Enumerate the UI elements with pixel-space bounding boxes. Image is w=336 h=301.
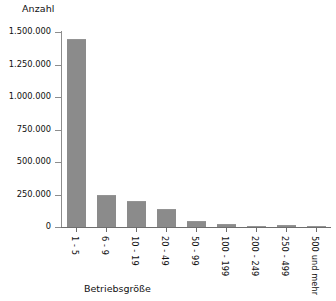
x-axis-tick-label: 20 - 49 bbox=[160, 236, 170, 266]
x-axis-tick-mark bbox=[256, 227, 257, 232]
bar bbox=[157, 209, 176, 227]
bar bbox=[67, 39, 86, 228]
y-axis-tick-label: 1.250.000 bbox=[9, 59, 51, 69]
x-axis-tick-label: 10 - 19 bbox=[130, 236, 140, 266]
x-axis-tick-mark bbox=[316, 227, 317, 232]
x-axis-tick-label: 50 - 99 bbox=[190, 236, 200, 266]
x-axis-tick-mark bbox=[196, 227, 197, 232]
y-axis-title: Anzahl bbox=[22, 3, 55, 14]
y-axis-tick-label: 1.500.000 bbox=[9, 26, 51, 36]
y-axis-tick-label: 500.000 bbox=[17, 156, 51, 166]
x-axis-tick-label: 200 - 249 bbox=[250, 236, 260, 276]
x-axis-tick-mark bbox=[76, 227, 77, 232]
x-axis-tick-label: 100 - 199 bbox=[220, 236, 230, 276]
y-axis-tick-label: 1.000.000 bbox=[9, 91, 51, 101]
x-axis-tick-label: 500 und mehr bbox=[310, 236, 320, 295]
x-axis-tick-mark bbox=[106, 227, 107, 232]
x-axis-tick-mark bbox=[286, 227, 287, 232]
bar-chart: Anzahl 0250.000500.000750.0001.000.0001.… bbox=[0, 0, 336, 301]
x-axis-tick-mark bbox=[136, 227, 137, 232]
bar bbox=[127, 201, 146, 227]
x-axis-tick-label: 6 - 9 bbox=[100, 236, 110, 255]
bar bbox=[97, 195, 116, 228]
y-axis-tick-label: 0 bbox=[46, 221, 51, 231]
bar-series bbox=[61, 32, 331, 227]
y-axis-tick-label: 750.000 bbox=[17, 124, 51, 134]
y-axis-tick-label: 250.000 bbox=[17, 189, 51, 199]
x-axis-tick-mark bbox=[226, 227, 227, 232]
x-axis-tick-label: 1 - 5 bbox=[70, 236, 80, 255]
x-axis-tick-mark bbox=[166, 227, 167, 232]
x-axis-tick-label: 250 - 499 bbox=[280, 236, 290, 276]
x-axis-title: Betriebsgröße bbox=[84, 283, 151, 294]
y-axis-tick-mark bbox=[55, 227, 61, 228]
